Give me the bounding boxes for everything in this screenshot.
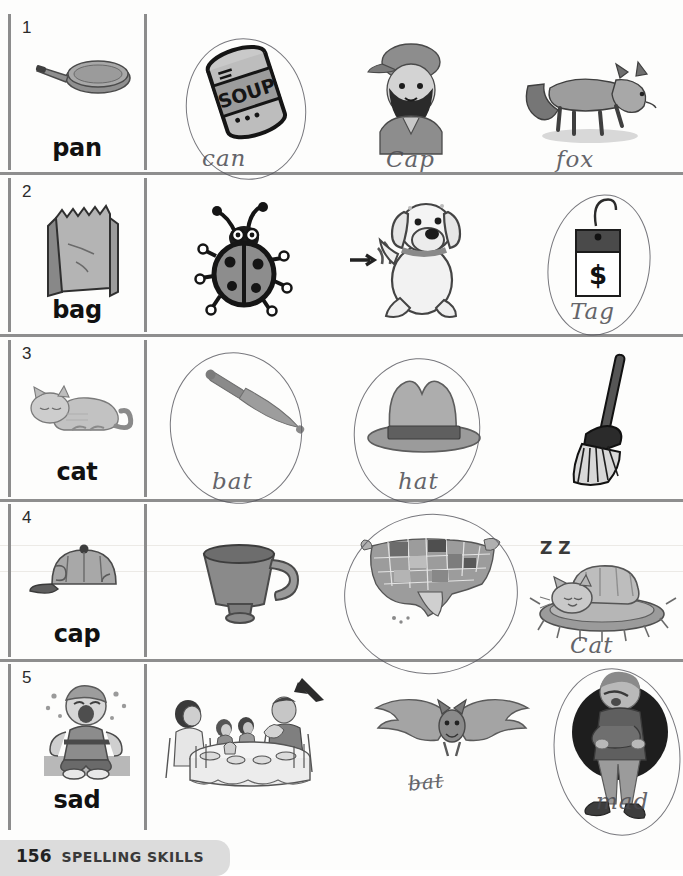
option-soup-can[interactable]: SOUP [182,32,312,157]
sleeping-cat-icon [26,378,136,436]
option-cat-on-mat[interactable]: Z Z [524,530,674,642]
row-number-3: 3 [22,344,32,364]
row-number-5: 5 [22,668,32,688]
cue-word-5: sad [11,786,143,814]
option-broom[interactable] [556,348,640,488]
page-footer-tab: 156 Spelling Skills [0,840,230,876]
paper-bag-icon [42,200,128,302]
worksheet-row-2: 2 bag [0,178,683,333]
handwritten-answer-5b: bat [407,768,445,796]
option-wagging-dog[interactable] [348,194,478,324]
cue-word-3: cat [11,458,143,486]
option-bat-animal[interactable] [372,696,532,772]
handwritten-answer-2c: Tag [570,298,615,324]
handwritten-answer-5c: mad [596,788,649,814]
page-number: 156 [16,846,52,866]
option-man-with-cap[interactable] [356,36,466,154]
cue-word-4: cap [11,620,143,648]
handwritten-answer-3b: hat [398,468,439,494]
handwritten-answer-1a: can [202,145,246,171]
row-divider-2 [0,334,683,337]
price-tag-label: $ [589,260,607,290]
handwritten-answer-1c: fox [556,146,594,172]
row-divider-4 [0,659,683,662]
worksheet-row-3: 3 cat [0,340,683,498]
crying-boy-icon [36,682,136,780]
option-family-at-table[interactable] [162,676,342,796]
handwritten-answer-4c: Cat [570,632,614,658]
row-number-2: 2 [22,182,32,202]
row-number-4: 4 [22,508,32,528]
cue-word-1: pan [11,134,143,162]
row-divider-1 [0,172,683,175]
worksheet-row-5: 5 sad [0,664,683,830]
option-fox[interactable] [520,48,660,148]
cue-word-2: bag [11,296,143,324]
handwritten-answer-1b: Cap [386,146,435,172]
book-title: Spelling Skills [62,849,205,865]
row-number-1: 1 [22,18,32,38]
option-baseball-bat[interactable] [192,366,322,446]
option-hat[interactable] [362,372,486,456]
frying-pan-icon [32,54,132,98]
handwritten-answer-3a: bat [212,468,253,494]
worksheet-row-4: 4 cap [0,504,683,658]
option-cup[interactable] [190,538,310,628]
baseball-cap-icon [28,540,138,598]
option-ladybug[interactable] [196,204,306,314]
row-divider-3 [0,499,683,502]
sleep-z-label: Z Z [540,538,571,558]
worksheet-row-1: 1 pan SOUP [0,14,683,172]
option-usa-map[interactable] [358,526,508,634]
